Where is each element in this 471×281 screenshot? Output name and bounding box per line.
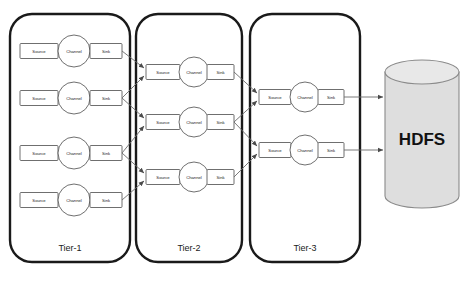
sink-label: Sink bbox=[216, 120, 225, 125]
sink-label: Sink bbox=[327, 148, 336, 153]
sink-label: Sink bbox=[327, 95, 336, 100]
sink-label: Sink bbox=[102, 198, 111, 203]
flume-topology-diagram: Source Channel Sink Source Channel Sink … bbox=[0, 0, 471, 281]
diagram-canvas: Source Channel Sink Source Channel Sink … bbox=[0, 0, 471, 281]
sink-label: Sink bbox=[102, 96, 111, 101]
cylinder-top bbox=[385, 60, 459, 84]
tier-label-tier-3: Tier-3 bbox=[293, 243, 316, 253]
sink-label: Sink bbox=[102, 49, 111, 54]
source-label: Source bbox=[156, 70, 170, 75]
channel-label: Channel bbox=[186, 70, 202, 75]
source-label: Source bbox=[268, 148, 282, 153]
hdfs-label: HDFS bbox=[399, 130, 445, 149]
channel-label: Channel bbox=[186, 175, 202, 180]
tier-label-tier-2: Tier-2 bbox=[177, 243, 200, 253]
hdfs-store[interactable]: HDFS bbox=[385, 60, 459, 208]
channel-label: Channel bbox=[297, 95, 313, 100]
channel-label: Channel bbox=[297, 148, 313, 153]
source-label: Source bbox=[32, 96, 46, 101]
sink-label: Sink bbox=[102, 151, 111, 156]
source-label: Source bbox=[268, 95, 282, 100]
sink-label: Sink bbox=[216, 70, 225, 75]
tier-box-tier-2 bbox=[136, 14, 242, 262]
channel-label: Channel bbox=[66, 96, 82, 101]
tier-label-tier-1: Tier-1 bbox=[58, 243, 81, 253]
channel-label: Channel bbox=[186, 120, 202, 125]
source-label: Source bbox=[32, 49, 46, 54]
source-label: Source bbox=[32, 151, 46, 156]
channel-label: Channel bbox=[66, 198, 82, 203]
source-label: Source bbox=[156, 120, 170, 125]
channel-label: Channel bbox=[66, 49, 82, 54]
sink-label: Sink bbox=[216, 175, 225, 180]
source-label: Source bbox=[32, 198, 46, 203]
source-label: Source bbox=[156, 175, 170, 180]
channel-label: Channel bbox=[66, 151, 82, 156]
